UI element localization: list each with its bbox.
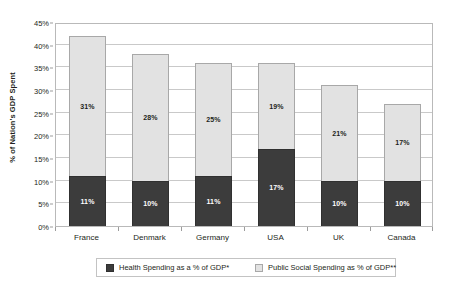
bar-segment-health[interactable]: 10% — [321, 181, 358, 226]
stacked-bar-chart: % of Nation's GDP Spent 0%5%10%15%20%25%… — [0, 0, 453, 289]
bar-segment-public-social[interactable]: 25% — [195, 63, 232, 176]
x-tick-label-usa: USA — [267, 233, 283, 242]
bar-value-label: 31% — [80, 103, 95, 110]
bar-value-label: 17% — [269, 184, 284, 191]
x-axis-ticks — [55, 227, 433, 232]
bar-segment-health[interactable]: 11% — [69, 176, 106, 226]
y-tick-label: 30% — [34, 87, 49, 96]
legend-item-health: Health Spending as a % of GDP* — [106, 263, 229, 272]
bar-stack: 21%10% — [321, 85, 358, 226]
bar-value-label: 10% — [332, 200, 347, 207]
bar-value-label: 19% — [269, 103, 284, 110]
x-tick-mark — [118, 227, 119, 231]
bar-stack: 28%10% — [132, 54, 169, 226]
x-tick-label-france: France — [74, 233, 99, 242]
x-tick-label-germany: Germany — [196, 233, 229, 242]
x-tick-mark — [432, 227, 433, 231]
x-tick-mark — [370, 227, 371, 231]
y-tick-label: 10% — [34, 177, 49, 186]
bar-stack: 31%11% — [69, 36, 106, 226]
y-tick-mark — [50, 204, 53, 205]
x-axis-labels: FranceDenmarkGermanyUSAUKCanada — [55, 233, 433, 247]
y-tick-mark — [50, 23, 53, 24]
y-tick-mark — [50, 136, 53, 137]
y-tick-label: 45% — [34, 19, 49, 28]
legend-label-health: Health Spending as a % of GDP* — [119, 263, 229, 272]
y-axis-title: % of Nation's GDP Spent — [0, 0, 24, 235]
bar-value-label: 10% — [395, 200, 410, 207]
y-tick-label: 20% — [34, 132, 49, 141]
plot-area: 31%11%28%10%25%11%19%17%21%10%17%10% — [55, 23, 433, 227]
bar-value-label: 10% — [143, 200, 158, 207]
x-tick-label-canada: Canada — [387, 233, 415, 242]
y-tick-label: 0% — [38, 223, 49, 232]
y-tick-label: 15% — [34, 155, 49, 164]
bar-stack: 17%10% — [384, 104, 421, 226]
legend-label-public-social: Public Social Spending as % of GDP** — [268, 263, 396, 272]
bars-layer: 31%11%28%10%25%11%19%17%21%10%17%10% — [56, 24, 432, 226]
legend-swatch-public-social-icon — [255, 264, 263, 272]
bar-segment-health[interactable]: 10% — [132, 181, 169, 226]
bar-value-label: 11% — [206, 198, 220, 205]
bar-segment-public-social[interactable]: 17% — [384, 104, 421, 181]
y-tick-label: 40% — [34, 41, 49, 50]
bar-value-label: 21% — [332, 130, 347, 137]
bar-stack: 19%17% — [258, 63, 295, 226]
bar-segment-health[interactable]: 10% — [384, 181, 421, 226]
legend-swatch-health-icon — [106, 264, 114, 272]
bar-segment-public-social[interactable]: 28% — [132, 54, 169, 181]
bar-segment-public-social[interactable]: 21% — [321, 85, 358, 180]
x-tick-mark — [307, 227, 308, 231]
bar-value-label: 11% — [80, 198, 94, 205]
y-tick-label: 25% — [34, 109, 49, 118]
y-axis-title-text: % of Nation's GDP Spent — [8, 72, 17, 163]
y-tick-label: 35% — [34, 64, 49, 73]
bar-stack: 25%11% — [195, 63, 232, 226]
x-tick-mark — [244, 227, 245, 231]
bar-value-label: 28% — [143, 114, 158, 121]
legend-item-public-social: Public Social Spending as % of GDP** — [255, 263, 396, 272]
bar-value-label: 25% — [206, 116, 221, 123]
y-tick-label: 5% — [38, 200, 49, 209]
y-tick-mark — [50, 113, 53, 114]
y-tick-mark — [50, 91, 53, 92]
y-tick-mark — [50, 181, 53, 182]
bar-segment-public-social[interactable]: 19% — [258, 63, 295, 149]
x-tick-mark — [55, 227, 56, 231]
y-tick-mark — [50, 227, 53, 228]
x-tick-label-uk: UK — [333, 233, 344, 242]
bar-segment-health[interactable]: 17% — [258, 149, 295, 226]
bar-segment-health[interactable]: 11% — [195, 176, 232, 226]
chart-legend: Health Spending as a % of GDP* Public So… — [96, 258, 396, 277]
y-tick-mark — [50, 68, 53, 69]
y-tick-mark — [50, 45, 53, 46]
y-axis-ticks: 0%5%10%15%20%25%30%35%40%45% — [22, 23, 53, 227]
y-tick-mark — [50, 159, 53, 160]
x-tick-label-denmark: Denmark — [133, 233, 165, 242]
bar-value-label: 17% — [395, 139, 410, 146]
x-tick-mark — [181, 227, 182, 231]
bar-segment-public-social[interactable]: 31% — [69, 36, 106, 177]
